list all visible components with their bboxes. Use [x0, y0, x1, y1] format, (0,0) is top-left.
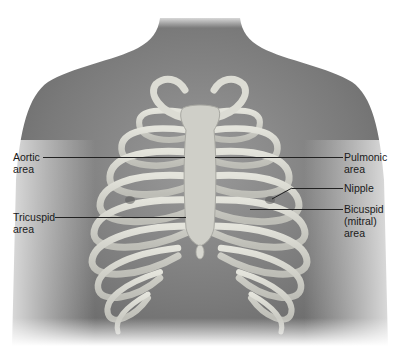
label-nipple: Nipple [344, 182, 374, 194]
label-bicuspid-mitral-area: Bicuspid (mitral) area [344, 203, 384, 239]
nipple-leader-line [292, 188, 343, 189]
label-aortic-area: Aortic area [13, 151, 40, 175]
chest-illustration [0, 0, 399, 346]
aortic-leader-line [43, 157, 185, 158]
bottom-fade [0, 318, 399, 346]
pulmonic-leader-line [215, 157, 343, 158]
bicuspid-leader-line [250, 209, 343, 210]
label-pulmonic-area: Pulmonic area [344, 151, 387, 175]
xiphoid-process [196, 245, 204, 259]
tricuspid-leader-line [55, 217, 186, 218]
label-tricuspid-area: Tricuspid area [13, 211, 55, 235]
chest-diagram: Aortic area Tricuspid area Pulmonic area… [0, 0, 399, 346]
